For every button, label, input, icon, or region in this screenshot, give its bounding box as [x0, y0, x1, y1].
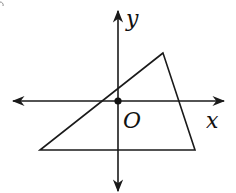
y-axis-label: y [125, 6, 139, 31]
origin-point [114, 97, 121, 104]
partial-mark [0, 2, 3, 6]
coordinate-diagram: y O x [0, 0, 236, 193]
x-axis-label: x [206, 108, 219, 133]
origin-label: O [123, 108, 141, 133]
